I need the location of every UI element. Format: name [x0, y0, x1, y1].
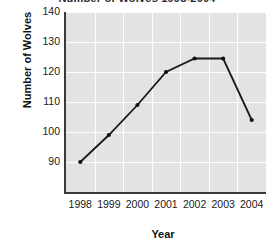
y-axis-title: Number of Wolves [21, 0, 37, 125]
data-point-marker [78, 160, 82, 164]
data-point-marker [135, 103, 139, 107]
wolves-line-chart: Number of Wolves 1998-2004 1401301201101… [0, 0, 274, 247]
data-point-marker [107, 133, 111, 137]
data-point-marker [250, 118, 254, 122]
data-point-marker [192, 56, 196, 60]
data-point-marker [221, 56, 225, 60]
x-axis-title: Year [56, 228, 270, 240]
data-series-layer [0, 0, 274, 247]
data-point-marker [164, 70, 168, 74]
